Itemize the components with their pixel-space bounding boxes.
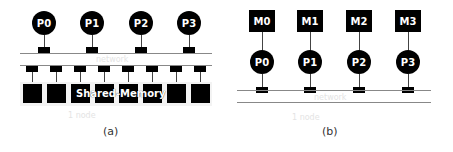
network-line-bottom [20,65,212,66]
link-line [262,74,263,88]
memory-label: M0 [254,16,271,27]
memory-m0: M0 [249,10,275,32]
link-line [262,32,263,52]
processor-p0: P0 [32,11,56,35]
caption-a: (a) [103,125,118,138]
processor-p2: P2 [347,50,371,74]
memory-label: M2 [351,16,368,27]
processor-p1: P1 [80,11,104,35]
link-line [310,32,311,52]
memory-label: M3 [400,16,417,27]
link-line [359,32,360,52]
link-line [408,74,409,88]
processor-p1: P1 [298,50,322,74]
memory-module [23,84,42,103]
link-line [310,74,311,88]
memory-module [47,84,66,103]
memory-m3: M3 [395,10,421,32]
processor-label: P0 [255,57,269,68]
caption-b: (b) [322,125,338,138]
memory-m1: M1 [297,10,323,32]
shared-memory-label: Shared-Memory [76,88,166,99]
memory-module [167,84,186,103]
network-line-top [20,53,212,54]
network-line-top [237,90,431,91]
processor-label: P0 [37,18,51,29]
memory-label: M1 [302,16,319,27]
network-line-bottom [237,102,431,103]
link-line [408,32,409,52]
processor-label: P1 [85,18,99,29]
node-label: 1 node [292,113,320,122]
processor-label: P2 [352,57,366,68]
processor-p3: P3 [177,11,201,35]
processor-label: P3 [182,18,196,29]
processor-label: P2 [134,18,148,29]
processor-label: P1 [303,57,317,68]
node-label: 1 node [68,111,96,120]
memory-module [191,84,210,103]
processor-label: P3 [401,57,415,68]
network-label: network [96,55,129,64]
network-label: network [314,93,347,102]
processor-p2: P2 [129,11,153,35]
link-line [359,74,360,88]
processor-p3: P3 [396,50,420,74]
memory-m2: M2 [346,10,372,32]
processor-p0: P0 [250,50,274,74]
